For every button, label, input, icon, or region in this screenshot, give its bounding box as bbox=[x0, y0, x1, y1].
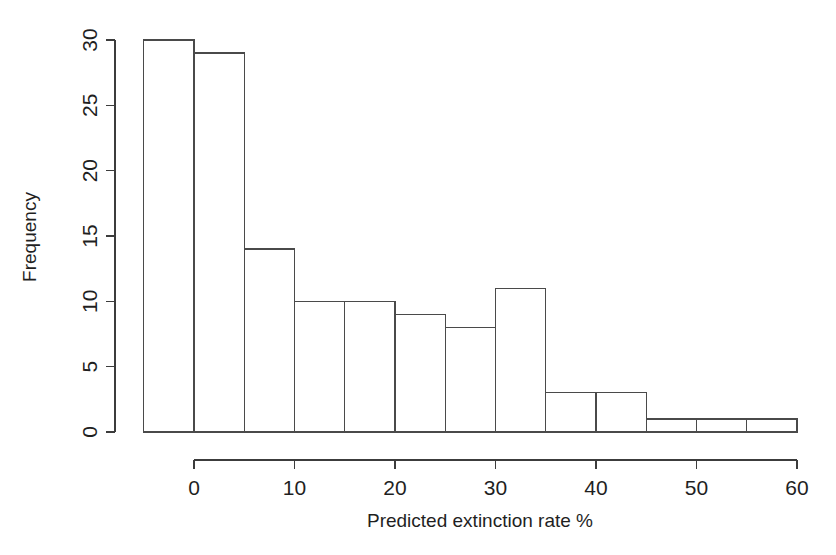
x-axis-tick-labels: 0102030405060 bbox=[188, 476, 809, 499]
y-axis-tick-label: 25 bbox=[78, 94, 101, 117]
y-axis-tick-label: 0 bbox=[78, 426, 101, 438]
y-axis-tick-labels: 051015202530 bbox=[78, 28, 101, 438]
histogram-bar bbox=[697, 419, 747, 432]
x-axis-tick-label: 20 bbox=[383, 476, 406, 499]
histogram-bar bbox=[395, 314, 445, 432]
histogram-bar bbox=[546, 393, 596, 432]
histogram-bar bbox=[496, 288, 546, 432]
histogram-bar bbox=[244, 249, 294, 432]
x-axis-tick-label: 0 bbox=[188, 476, 200, 499]
y-axis-tick-label: 15 bbox=[78, 224, 101, 247]
x-axis-title: Predicted extinction rate % bbox=[367, 510, 593, 531]
histogram-bar bbox=[345, 301, 395, 432]
histogram-figure: 051015202530 0102030405060 Frequency Pre… bbox=[0, 0, 836, 555]
histogram-bar bbox=[445, 327, 495, 432]
x-axis-tick-label: 10 bbox=[283, 476, 306, 499]
y-axis-tick-label: 5 bbox=[78, 361, 101, 373]
histogram-bar bbox=[646, 419, 696, 432]
x-axis-tick-label: 40 bbox=[584, 476, 607, 499]
histogram-bar bbox=[144, 40, 194, 432]
histogram-bar bbox=[596, 393, 646, 432]
histogram-bar bbox=[295, 301, 345, 432]
y-axis-tick-label: 30 bbox=[78, 28, 101, 51]
x-axis-tick-label: 50 bbox=[685, 476, 708, 499]
y-axis-title: Frequency bbox=[19, 192, 40, 282]
y-axis-tick-label: 20 bbox=[78, 159, 101, 182]
bars-group bbox=[144, 40, 797, 432]
x-axis-tick-label: 60 bbox=[785, 476, 808, 499]
plot-canvas: 051015202530 0102030405060 Frequency Pre… bbox=[0, 0, 836, 555]
y-axis-tick-label: 10 bbox=[78, 290, 101, 313]
y-axis bbox=[106, 40, 115, 432]
x-axis bbox=[194, 460, 797, 469]
histogram-bar bbox=[747, 419, 797, 432]
histogram-bar bbox=[194, 53, 244, 432]
x-axis-tick-label: 30 bbox=[484, 476, 507, 499]
